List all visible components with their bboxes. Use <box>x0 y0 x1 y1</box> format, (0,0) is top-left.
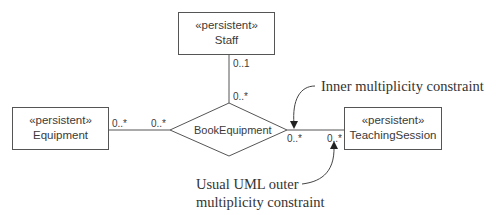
mult-session-outer: 0..* <box>327 133 342 144</box>
annotation-inner: Inner multiplicity constraint <box>321 77 484 95</box>
annotation-outer: Usual UML outer multiplicity constraint <box>196 175 324 211</box>
class-teaching-session[interactable]: «persistent» TeachingSession <box>344 107 442 150</box>
association-name: BookEquipment <box>194 124 272 136</box>
inner-arrowhead-icon <box>290 121 298 129</box>
mult-session-inner: 0..* <box>287 133 302 144</box>
equipment-stereotype: «persistent» <box>13 113 108 128</box>
equipment-name: Equipment <box>13 128 108 143</box>
annotation-outer-line1: Usual UML outer <box>196 175 324 193</box>
inner-arrow <box>294 86 315 124</box>
staff-name: Staff <box>179 33 274 48</box>
mult-staff-outer: 0..1 <box>233 58 250 69</box>
class-staff[interactable]: «persistent» Staff <box>178 12 275 55</box>
annotation-outer-line2: multiplicity constraint <box>196 193 324 211</box>
session-name: TeachingSession <box>345 128 441 143</box>
staff-stereotype: «persistent» <box>179 18 274 33</box>
class-equipment[interactable]: «persistent» Equipment <box>12 107 109 150</box>
mult-equipment-inner: 0..* <box>151 118 166 129</box>
mult-staff-inner: 0..* <box>233 91 248 102</box>
mult-equipment-outer: 0..* <box>112 118 127 129</box>
session-stereotype: «persistent» <box>345 113 441 128</box>
